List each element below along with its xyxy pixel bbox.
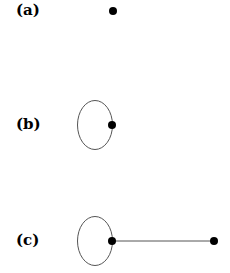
panel-b-loop [78,101,113,150]
graph-diagrams [0,0,230,273]
panel-c-vertex-left [108,237,116,245]
panel-a-vertex [109,7,117,15]
panel-c-loop [78,217,113,266]
panel-b-vertex [108,121,116,129]
panel-c-vertex-right [210,237,218,245]
